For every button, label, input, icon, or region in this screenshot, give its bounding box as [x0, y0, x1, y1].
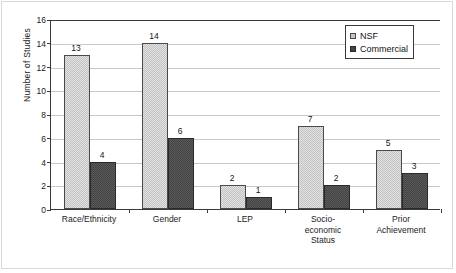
y-axis-tick-mark	[47, 43, 51, 44]
y-axis-tick-label: 2	[20, 181, 46, 191]
y-axis-tick-labels: 0246810121416	[18, 20, 46, 210]
legend-label: NSF	[360, 31, 378, 41]
bar-value-label: 1	[256, 185, 261, 195]
x-axis-category-label: LEP	[237, 214, 253, 225]
x-axis-tick-mark	[207, 209, 208, 213]
y-axis-tick-mark	[47, 20, 51, 21]
y-axis-tick-label: 14	[20, 39, 46, 49]
legend-item-commercial: Commercial	[350, 42, 408, 55]
x-axis-tick-mark	[441, 209, 442, 213]
bar-value-label: 7	[308, 114, 313, 124]
bar-commercial-2	[246, 197, 272, 209]
y-axis-tick-mark	[47, 186, 51, 187]
bar-nsf-1	[142, 43, 168, 209]
y-axis-tick-mark	[47, 115, 51, 116]
gridline	[51, 115, 440, 116]
y-axis-tick-mark	[47, 138, 51, 139]
y-axis-tick-mark	[47, 91, 51, 92]
bar-value-label: 3	[412, 161, 417, 171]
x-axis-tick-mark	[285, 209, 286, 213]
bar-value-label: 2	[334, 173, 339, 183]
x-axis-category-label: Prior Achievement	[376, 214, 425, 235]
bar-commercial-3	[324, 185, 350, 209]
bar-nsf-4	[376, 150, 402, 209]
y-axis-tick-label: 8	[20, 110, 46, 120]
x-axis-tick-mark	[363, 209, 364, 213]
bar-value-label: 5	[386, 138, 391, 148]
y-axis-tick-label: 16	[20, 15, 46, 25]
plot-top-rule	[51, 20, 440, 21]
legend-item-nsf: NSF	[350, 29, 408, 42]
bar-value-label: 14	[149, 31, 158, 41]
gridline	[51, 139, 440, 140]
x-axis-category-label: Socio- economic Status	[305, 214, 341, 246]
y-axis-tick-label: 10	[20, 86, 46, 96]
legend-label: Commercial	[360, 44, 408, 54]
gridline	[51, 68, 440, 69]
gridline	[51, 91, 440, 92]
legend-swatch-icon	[350, 46, 356, 52]
bar-commercial-1	[168, 138, 194, 209]
x-axis-tick-mark	[129, 209, 130, 213]
bar-value-label: 2	[230, 173, 235, 183]
bar-chart-figure: Number of Studies 0246810121416 NSFComme…	[0, 0, 456, 273]
bar-value-label: 6	[178, 126, 183, 136]
bar-nsf-3	[298, 126, 324, 209]
bar-value-label: 4	[100, 150, 105, 160]
bar-commercial-4	[402, 173, 428, 209]
y-axis-tick-mark	[47, 162, 51, 163]
y-axis-tick-mark	[47, 67, 51, 68]
y-axis-tick-label: 6	[20, 134, 46, 144]
y-axis-tick-label: 4	[20, 158, 46, 168]
x-axis-category-label: Race/Ethnicity	[62, 214, 116, 225]
y-axis-tick-label: 12	[20, 63, 46, 73]
bar-value-label: 13	[71, 43, 80, 53]
x-axis-category-label: Gender	[153, 214, 181, 225]
y-axis-tick-label: 0	[20, 205, 46, 215]
chart-legend: NSFCommercial	[345, 25, 414, 59]
legend-swatch-icon	[350, 33, 356, 39]
bar-commercial-0	[90, 162, 116, 210]
bar-nsf-0	[64, 55, 90, 209]
bar-nsf-2	[220, 185, 246, 209]
y-axis-tick-mark	[47, 210, 51, 211]
